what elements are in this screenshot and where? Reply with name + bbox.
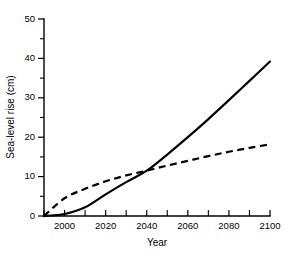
y-tick-label: 20: [24, 131, 35, 142]
y-tick-label: 50: [24, 13, 35, 24]
y-tick-label: 40: [24, 52, 35, 63]
x-tick-label: 2040: [136, 220, 157, 231]
x-tick-label: 2080: [218, 220, 239, 231]
x-tick-label: 2100: [259, 220, 280, 231]
y-axis-title: Sea-level rise (cm): [5, 75, 16, 158]
x-tick-label: 2020: [95, 220, 116, 231]
y-tick-label: 0: [30, 210, 35, 221]
x-tick-label: 2060: [177, 220, 198, 231]
y-tick-label: 10: [24, 170, 35, 181]
sea-level-rise-line-chart: 01020304050 Sea-level rise (cm) 20002020…: [0, 0, 293, 257]
chart-container: 01020304050 Sea-level rise (cm) 20002020…: [0, 0, 293, 257]
x-axis-title: Year: [147, 237, 168, 248]
x-tick-label: 2000: [54, 220, 75, 231]
y-tick-label: 30: [24, 91, 35, 102]
